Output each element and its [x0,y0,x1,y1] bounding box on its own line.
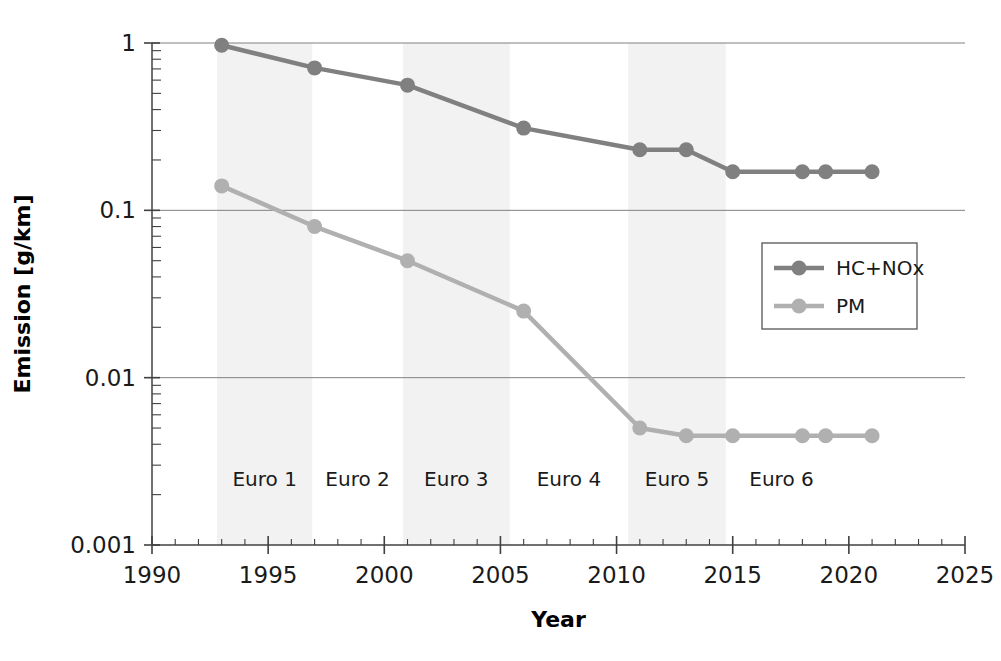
data-point-pm-2021 [865,428,880,443]
legend: HC+NOxPM [762,243,924,329]
legend-marker-hc-nox [792,261,807,276]
band-label-euro-2: Euro 2 [325,467,389,491]
data-point-hc-nox-1993 [214,38,229,53]
x-axis-title: Year [530,607,586,632]
legend-marker-pm [792,299,807,314]
legend-label-pm: PM [836,294,865,318]
y-tick-label-0.01: 0.01 [85,365,136,391]
x-tick-label-2000: 2000 [355,562,414,588]
data-point-pm-2011 [632,421,647,436]
x-tick-label-2020: 2020 [820,562,879,588]
x-tick-label-2010: 2010 [587,562,646,588]
data-point-pm-2013 [679,428,694,443]
data-point-pm-1993 [214,178,229,193]
data-point-hc-nox-1997 [307,60,322,75]
data-point-pm-1997 [307,219,322,234]
data-point-hc-nox-2006 [516,121,531,136]
data-point-hc-nox-2021 [865,164,880,179]
x-tick-label-2015: 2015 [703,562,762,588]
band-label-euro-6: Euro 6 [749,467,813,491]
data-point-hc-nox-2019 [818,164,833,179]
band-label-euro-5: Euro 5 [645,467,709,491]
y-tick-label-0.1: 0.1 [99,197,136,223]
y-tick-label-0.001: 0.001 [70,532,136,558]
data-point-hc-nox-2001 [400,78,415,93]
data-point-pm-2001 [400,253,415,268]
x-tick-label-1990: 1990 [123,562,182,588]
x-tick-label-1995: 1995 [239,562,298,588]
data-point-pm-2006 [516,304,531,319]
legend-label-hc-nox: HC+NOx [836,256,924,280]
data-point-hc-nox-2015 [725,164,740,179]
band-label-euro-4: Euro 4 [537,467,601,491]
x-tick-label-2025: 2025 [936,562,995,588]
band-label-euro-3: Euro 3 [424,467,488,491]
data-point-hc-nox-2013 [679,142,694,157]
data-point-hc-nox-2018 [795,164,810,179]
data-point-pm-2019 [818,428,833,443]
x-tick-label-2005: 2005 [471,562,530,588]
band-label-euro-1: Euro 1 [232,467,296,491]
data-point-pm-2018 [795,428,810,443]
emission-line-chart: Euro 1Euro 2Euro 3Euro 4Euro 5Euro 6 10.… [0,0,1001,661]
y-axis-title: Emission [g/km] [10,194,35,393]
data-point-pm-2015 [725,428,740,443]
data-point-hc-nox-2011 [632,142,647,157]
y-tick-label-1: 1 [121,30,136,56]
